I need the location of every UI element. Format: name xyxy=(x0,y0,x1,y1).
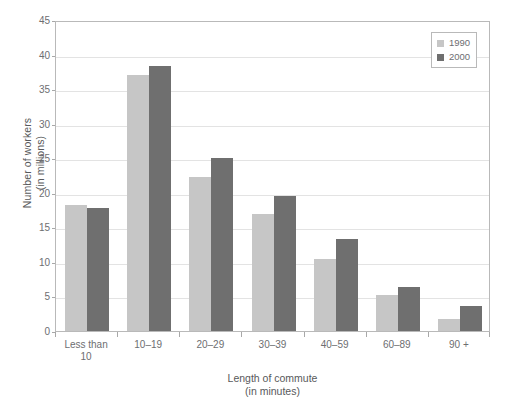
bar-2000-0 xyxy=(87,208,109,331)
x-axis-tick-labels: Less than1010–1920–2930–3940–5960–8990 + xyxy=(55,339,490,369)
y-tick-label: 0 xyxy=(22,327,50,337)
y-tick-label: 25 xyxy=(22,154,50,164)
legend-label: 1990 xyxy=(449,38,470,48)
legend-entry-2000: 2000 xyxy=(437,51,470,63)
bar-1990-3 xyxy=(252,214,274,331)
bar-group xyxy=(376,22,420,331)
y-tick-label: 40 xyxy=(22,51,50,61)
y-tick-label: 10 xyxy=(22,258,50,268)
bar-2000-2 xyxy=(211,158,233,331)
plot-area xyxy=(55,21,490,332)
x-axis-title: Length of commute (in minutes) xyxy=(55,372,490,398)
x-tick-mark xyxy=(179,332,180,337)
bar-2000-1 xyxy=(149,66,171,331)
bars-layer xyxy=(56,22,489,331)
x-tick-label: 90 + xyxy=(423,339,495,351)
bar-group xyxy=(127,22,171,331)
x-tick-mark xyxy=(55,332,56,337)
x-tick-mark xyxy=(489,332,490,337)
x-axis-tick-marks xyxy=(55,332,490,338)
y-tick-label: 15 xyxy=(22,223,50,233)
x-tick-mark xyxy=(117,332,118,337)
bar-2000-4 xyxy=(336,239,358,331)
y-tick-label: 45 xyxy=(22,16,50,26)
bar-group xyxy=(65,22,109,331)
bar-2000-5 xyxy=(398,287,420,331)
x-tick-label-line2: 10 xyxy=(50,351,122,363)
bar-group xyxy=(189,22,233,331)
legend: 19902000 xyxy=(431,32,477,68)
x-tick-mark xyxy=(428,332,429,337)
bar-chart-figure: Number of workers (in millions) 05101520… xyxy=(0,0,512,411)
legend-entry-1990: 1990 xyxy=(437,37,470,49)
bar-1990-6 xyxy=(438,319,460,331)
legend-swatch-icon xyxy=(437,54,444,61)
bar-1990-2 xyxy=(189,177,211,331)
bar-1990-1 xyxy=(127,75,149,331)
x-tick-label-line1: 90 + xyxy=(423,339,495,351)
x-tick-mark xyxy=(304,332,305,337)
legend-label: 2000 xyxy=(449,52,470,62)
x-tick-mark xyxy=(366,332,367,337)
x-axis-title-line2: (in minutes) xyxy=(55,385,490,398)
bar-1990-0 xyxy=(65,205,87,331)
y-axis-tick-labels: 051015202530354045 xyxy=(22,16,50,332)
y-tick-label: 20 xyxy=(22,189,50,199)
x-tick-mark xyxy=(241,332,242,337)
bar-group xyxy=(314,22,358,331)
bar-2000-6 xyxy=(460,306,482,331)
bar-2000-3 xyxy=(274,196,296,331)
bar-group xyxy=(438,22,482,331)
bar-1990-5 xyxy=(376,295,398,331)
y-tick-label: 35 xyxy=(22,85,50,95)
bar-1990-4 xyxy=(314,259,336,331)
y-tick-label: 5 xyxy=(22,292,50,302)
legend-swatch-icon xyxy=(437,40,444,47)
bar-group xyxy=(252,22,296,331)
x-axis-title-line1: Length of commute xyxy=(55,372,490,385)
y-tick-label: 30 xyxy=(22,120,50,130)
